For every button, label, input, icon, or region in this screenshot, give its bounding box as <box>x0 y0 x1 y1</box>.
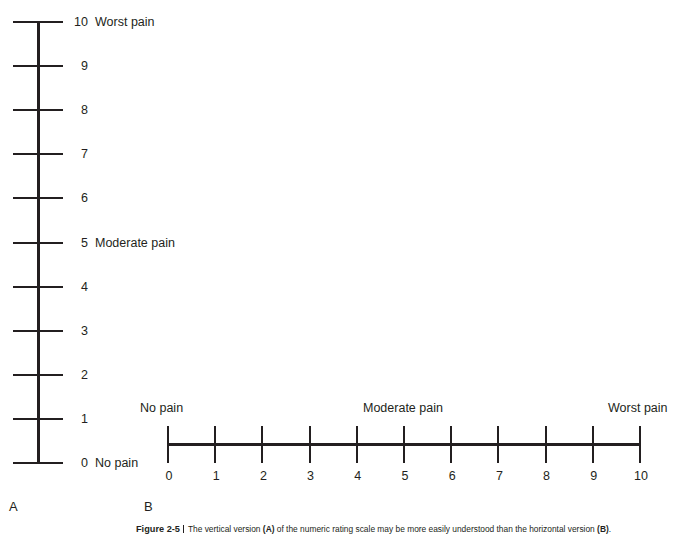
horizontal-tick-label-10: 10 <box>629 470 653 483</box>
horizontal-tick-label-5: 5 <box>393 470 417 483</box>
caption-text-part-2: of the numeric rating scale may be more … <box>274 524 597 534</box>
horizontal-tick-mark-5 <box>403 426 405 463</box>
panel-b-horizontal-scale: 012345678910 No pain Moderate pain Worst… <box>0 0 678 500</box>
horizontal-tick-mark-8 <box>545 426 547 463</box>
caption-ref-a: (A) <box>263 524 275 534</box>
caption-ref-b: (B) <box>597 524 609 534</box>
panel-letter-a: A <box>9 500 18 513</box>
caption-figure-number: Figure 2-5 <box>136 524 180 534</box>
horizontal-tick-mark-0 <box>167 426 169 463</box>
caption-divider-rule <box>183 525 184 533</box>
caption-text-part-3: . <box>609 524 611 534</box>
horizontal-tick-mark-1 <box>214 426 216 463</box>
horizontal-tick-label-2: 2 <box>251 470 275 483</box>
horizontal-tick-mark-9 <box>592 426 594 463</box>
horizontal-tick-mark-4 <box>356 426 358 463</box>
horizontal-tick-mark-3 <box>309 426 311 463</box>
horizontal-anchor-no-pain: No pain <box>140 402 183 415</box>
horizontal-tick-label-8: 8 <box>535 470 559 483</box>
horizontal-tick-mark-7 <box>497 426 499 463</box>
horizontal-tick-label-6: 6 <box>440 470 464 483</box>
horizontal-tick-label-0: 0 <box>157 470 181 483</box>
horizontal-tick-label-4: 4 <box>346 470 370 483</box>
horizontal-tick-label-7: 7 <box>487 470 511 483</box>
figure-container: 10Worst pain98765Moderate pain43210No pa… <box>0 0 678 536</box>
caption-text-part-1: The vertical version <box>188 524 263 534</box>
horizontal-anchor-worst-pain: Worst pain <box>608 402 668 415</box>
panel-letter-b: B <box>144 500 153 513</box>
horizontal-tick-mark-2 <box>261 426 263 463</box>
horizontal-anchor-moderate-pain: Moderate pain <box>363 402 443 415</box>
horizontal-tick-label-1: 1 <box>204 470 228 483</box>
figure-caption: Figure 2-5The vertical version (A) of th… <box>136 524 676 535</box>
horizontal-tick-mark-10 <box>639 426 641 463</box>
horizontal-tick-label-9: 9 <box>582 470 606 483</box>
horizontal-tick-label-3: 3 <box>299 470 323 483</box>
horizontal-tick-mark-6 <box>450 426 452 463</box>
